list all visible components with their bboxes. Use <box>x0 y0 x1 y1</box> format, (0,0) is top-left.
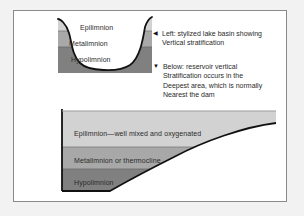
upper-metalimnion-label: Metalimnion <box>69 40 108 47</box>
note-below-line-2: Stratification occurs in the <box>163 71 285 80</box>
left-pointing-triangle-icon: ◀ <box>153 29 158 38</box>
note-below-line-1: Below: reservoir vertical <box>163 62 285 71</box>
note-left-callout: ◀ Left: stylized lake basin showing Vert… <box>153 29 285 48</box>
upper-epilimnion-label: Epilimnion <box>80 24 113 31</box>
lower-epilimnion-band <box>54 107 284 147</box>
note-below-line-3: Deepest area, which is normally <box>163 81 285 90</box>
note-left-line-1: Left: stylized lake basin showing <box>162 29 285 38</box>
note-below-line-4: Nearest the dam <box>163 90 285 99</box>
down-pointing-triangle-icon: ▼ <box>153 62 159 71</box>
lower-metalimnion-label: Metalimnion or thermocline <box>74 157 161 164</box>
note-below-body: Below: reservoir vertical Stratification… <box>163 62 285 100</box>
figure-page: Epilimnion Metalimnion Hypolimnion Epili… <box>0 0 304 216</box>
note-below-callout: ▼ Below: reservoir vertical Stratificati… <box>153 62 285 100</box>
upper-hypolimnion-label: Hypolimnion <box>71 56 111 63</box>
note-left-body: Left: stylized lake basin showing Vertic… <box>162 29 285 48</box>
lower-hypolimnion-label: Hypolimnion <box>74 179 114 186</box>
note-left-line-2: Vertical stratification <box>162 38 285 47</box>
lower-epilimnion-label: Epilimnion—well mixed and oxygenated <box>74 130 201 137</box>
figure-frame: Epilimnion Metalimnion Hypolimnion Epili… <box>13 10 287 202</box>
